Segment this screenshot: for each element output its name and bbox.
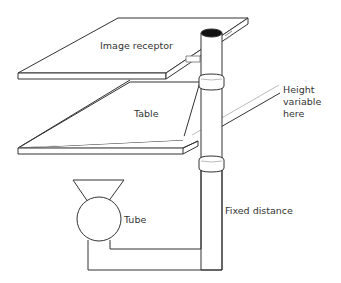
label-height-3: here — [283, 108, 305, 119]
table-plate — [18, 80, 200, 154]
label-table: Table — [133, 108, 159, 119]
label-tube: Tube — [123, 214, 146, 225]
support-column — [199, 85, 224, 270]
column-top-aperture — [201, 29, 222, 37]
upper-column — [199, 29, 224, 90]
tube-housing — [77, 197, 121, 241]
xray-tube — [73, 180, 124, 241]
label-fixed-distance: Fixed distance — [225, 205, 293, 216]
label-height-1: Height — [283, 84, 315, 95]
diagram-canvas: Image receptor Table Height variable her… — [0, 0, 341, 283]
label-image-receptor: Image receptor — [100, 40, 173, 51]
label-height-2: variable — [283, 96, 321, 107]
